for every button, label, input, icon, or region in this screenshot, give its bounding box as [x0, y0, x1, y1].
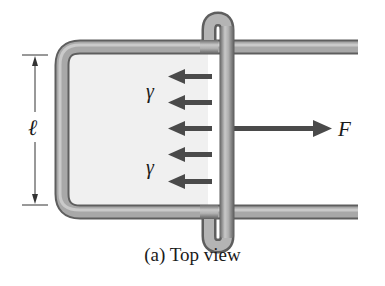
force-arrow	[228, 120, 332, 137]
length-label: ℓ	[28, 115, 37, 141]
figure-caption: (a) Top view	[0, 244, 385, 266]
surface-tension-label-lower: γ	[146, 156, 154, 179]
force-label: F	[338, 117, 351, 142]
surface-tension-label-upper: γ	[146, 80, 154, 103]
